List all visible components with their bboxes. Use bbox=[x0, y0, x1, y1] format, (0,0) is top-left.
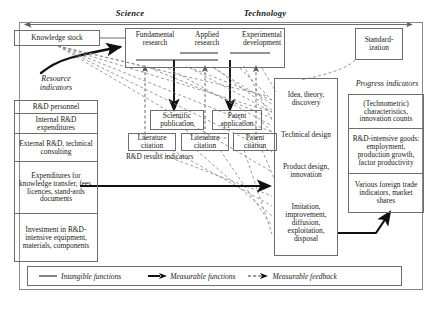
patent-application-label: Patent application bbox=[214, 112, 260, 127]
legend-label-measurable-feedback: Measurable feedback bbox=[272, 272, 336, 281]
literature-citation-box-2[interactable]: Literature citation bbox=[181, 133, 229, 151]
fundamental-research-label[interactable]: Fundamental research bbox=[128, 31, 182, 47]
scientific-publication-label: Scientific publication bbox=[152, 112, 202, 127]
patent-application-box[interactable]: Patent application bbox=[212, 110, 262, 130]
scientific-publication-box[interactable]: Scientific publication bbox=[150, 110, 204, 130]
progress-indicators-title: Progress indicators bbox=[348, 80, 426, 89]
dashed-arrow-icon bbox=[247, 272, 269, 280]
process-column: Idea, theory, discovery Technical design… bbox=[274, 78, 338, 256]
progress-indicator-item[interactable]: R&D-intensive goods: employment, product… bbox=[349, 129, 423, 174]
process-item-idea[interactable]: Idea, theory, discovery bbox=[275, 91, 337, 107]
solid-arrow-icon bbox=[147, 272, 167, 280]
resource-indicators-title-line2: indicators bbox=[20, 84, 92, 93]
patent-citation-box[interactable]: Patent citation bbox=[233, 133, 277, 151]
literature-citation-label-2: Literature citation bbox=[183, 134, 227, 149]
experimental-development-label[interactable]: Experimental development bbox=[231, 31, 293, 47]
legend-item-intangible: Intangible functions bbox=[38, 272, 121, 281]
legend-item-measurable-feedback: Measurable feedback bbox=[247, 272, 336, 281]
solid-line-icon bbox=[38, 272, 58, 280]
applied-research-label[interactable]: Applied research bbox=[185, 31, 229, 47]
literature-citation-label-1: Literature citation bbox=[130, 134, 174, 149]
resource-indicators-title: Resource indicators bbox=[20, 75, 92, 93]
progress-indicator-item[interactable]: (Technometric) characteristics, innovati… bbox=[349, 95, 423, 129]
literature-citation-box-1[interactable]: Literature citation bbox=[128, 133, 176, 151]
standardization-box[interactable]: Standard-ization bbox=[355, 28, 403, 60]
resource-indicator-item[interactable]: Expenditures for knowledge transfer, fee… bbox=[15, 162, 97, 214]
resource-indicator-item[interactable]: R&D personnel bbox=[15, 101, 97, 114]
rd-results-indicators-caption: R&D results indicators bbox=[126, 153, 266, 161]
standardization-label: Standard-ization bbox=[357, 36, 401, 51]
process-item-imitation[interactable]: Imitation, improvement, diffusion, explo… bbox=[275, 203, 337, 243]
progress-indicators-stack: (Technometric) characteristics, innovati… bbox=[348, 94, 424, 213]
legend-item-measurable-functions: Measurable functions bbox=[147, 272, 235, 281]
diagram-canvas: Science Technology Knowledge stock Resou… bbox=[0, 0, 434, 312]
resource-indicator-item[interactable]: Internal R&D expenditures bbox=[15, 114, 97, 134]
resource-indicator-item[interactable]: Investment in R&D-intensive equipment, m… bbox=[15, 214, 97, 262]
progress-indicator-item[interactable]: Various foreign trade indicators, market… bbox=[349, 174, 423, 212]
process-item-technical-design[interactable]: Technical design bbox=[279, 131, 333, 139]
knowledge-stock-box[interactable]: Knowledge stock bbox=[14, 30, 100, 46]
process-item-product-design[interactable]: Product design, innovation bbox=[275, 163, 337, 179]
legend-label-measurable-functions: Measurable functions bbox=[170, 272, 235, 281]
legend-label-intangible: Intangible functions bbox=[61, 272, 121, 281]
resource-indicator-item[interactable]: External R&D, technical consulting bbox=[15, 134, 97, 162]
resource-indicators-stack: R&D personnel Internal R&D expenditures … bbox=[14, 100, 98, 262]
legend-box: Intangible functions Measurable function… bbox=[27, 266, 402, 286]
science-label: Science bbox=[85, 9, 175, 18]
knowledge-stock-label: Knowledge stock bbox=[31, 34, 83, 42]
patent-citation-label: Patent citation bbox=[235, 134, 275, 149]
technology-label: Technology bbox=[215, 9, 315, 18]
